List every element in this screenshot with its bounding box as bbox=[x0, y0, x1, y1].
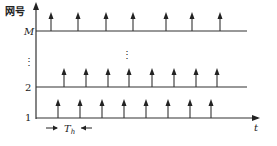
impulse-arrow-icon bbox=[188, 99, 193, 118]
impulse-arrow-icon bbox=[218, 12, 223, 31]
impulse-arrow-icon bbox=[144, 99, 149, 118]
svg-text:Th: Th bbox=[64, 123, 75, 136]
period-indicator: Th bbox=[46, 123, 92, 136]
impulse-arrow-icon bbox=[62, 68, 67, 87]
impulse-arrow-icon bbox=[76, 12, 81, 31]
impulse-arrow-icon bbox=[172, 68, 177, 87]
impulse-arrow-icon bbox=[209, 99, 214, 118]
row-m bbox=[36, 12, 247, 31]
impulse-arrow-icon bbox=[106, 68, 111, 87]
impulse-arrow-icon bbox=[194, 68, 199, 87]
y-axis-label: 网号 bbox=[5, 6, 25, 17]
network-timing-diagram: 网号 M 2 1 ⋮ ⋮ t Th bbox=[0, 0, 277, 146]
impulse-arrow-icon bbox=[166, 99, 171, 118]
x-axis-arrow-icon bbox=[252, 115, 260, 121]
period-subscript: h bbox=[71, 128, 76, 136]
impulse-arrow-icon bbox=[164, 12, 169, 31]
impulse-arrow-icon bbox=[150, 68, 155, 87]
impulse-arrow-icon bbox=[104, 12, 109, 31]
row-ellipsis-middle: ⋮ bbox=[122, 49, 132, 60]
impulse-arrow-icon bbox=[127, 68, 132, 87]
row-1 bbox=[36, 99, 258, 118]
impulse-arrow-icon bbox=[78, 99, 83, 118]
impulse-arrow-icon bbox=[100, 99, 105, 118]
x-axis-label: t bbox=[254, 122, 259, 133]
impulse-arrow-icon bbox=[131, 12, 136, 31]
rows-group bbox=[36, 12, 258, 118]
row-ellipsis-left: ⋮ bbox=[24, 56, 34, 67]
row-label-1: 1 bbox=[25, 112, 31, 123]
impulse-arrow-icon bbox=[56, 99, 61, 118]
row-2 bbox=[36, 68, 247, 87]
impulse-arrow-icon bbox=[49, 12, 54, 31]
impulse-arrow-icon bbox=[190, 12, 195, 31]
y-axis-arrow-icon bbox=[33, 2, 39, 10]
row-label-m: M bbox=[23, 26, 35, 37]
impulse-arrow-icon bbox=[84, 68, 89, 87]
impulse-arrow-icon bbox=[122, 99, 127, 118]
row-label-2: 2 bbox=[25, 82, 31, 93]
impulse-arrow-icon bbox=[215, 68, 220, 87]
